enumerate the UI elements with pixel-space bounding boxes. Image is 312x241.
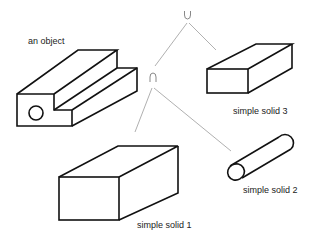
label-an-object: an object: [28, 36, 65, 46]
solid1-shape: [59, 146, 178, 220]
label-simple-solid-3: simple solid 3: [233, 106, 288, 116]
union-icon: [185, 11, 191, 19]
label-simple-solid-2: simple solid 2: [243, 185, 298, 195]
solid3-shape: [207, 44, 292, 93]
edge-union-to-intersection: [155, 23, 187, 66]
tree-edges: [135, 23, 231, 151]
edge-intersection-to-solid2: [154, 88, 231, 151]
edge-intersection-to-solid1: [135, 88, 152, 132]
label-simple-solid-1: simple solid 1: [137, 220, 192, 230]
object-shape: [17, 50, 137, 126]
edge-union-to-solid3: [189, 23, 216, 50]
solid2-shape: [225, 135, 294, 184]
hole-circle: [29, 106, 43, 120]
intersection-icon: [150, 73, 156, 82]
